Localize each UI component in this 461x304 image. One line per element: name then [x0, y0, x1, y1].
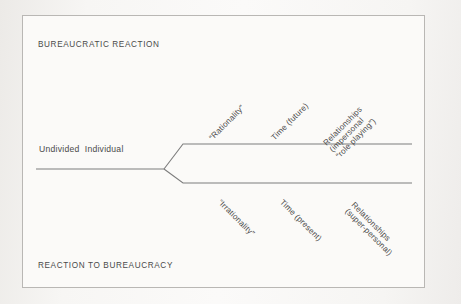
- lower-branch-line: [164, 169, 412, 183]
- diagram-canvas: BUREAUCRATIC REACTION REACTION TO BUREAU…: [0, 0, 461, 304]
- label-reaction-to-bureaucracy: REACTION TO BUREAUCRACY: [38, 261, 173, 270]
- label-undivided-individual: Undivided Individual: [39, 144, 124, 154]
- upper-branch-line: [164, 144, 412, 169]
- label-bureaucratic-reaction: BUREAUCRATIC REACTION: [38, 40, 160, 49]
